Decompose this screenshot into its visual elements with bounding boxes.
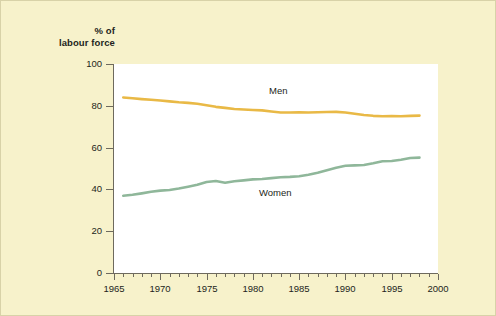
x-tick-mark-minor — [123, 274, 124, 277]
x-tick-label: 1975 — [187, 283, 227, 295]
x-tick-mark-minor — [308, 274, 309, 277]
x-tick-mark-minor — [373, 274, 374, 277]
y-tick-mark — [106, 106, 113, 107]
x-tick-mark-minor — [216, 274, 217, 277]
x-tick-label: 1965 — [94, 283, 134, 295]
x-tick-label: 2000 — [418, 283, 458, 295]
y-tick-label: 0 — [74, 268, 102, 278]
x-axis-spine — [113, 273, 438, 274]
x-tick-mark-minor — [318, 274, 319, 277]
x-tick-label-text: 2000 — [418, 283, 458, 294]
y-tick-label: 100 — [74, 59, 102, 69]
x-tick-label-text: 1975 — [187, 283, 227, 294]
x-tick-label-text: 1990 — [325, 283, 365, 294]
y-tick-label: 60 — [74, 143, 102, 153]
x-tick-mark-minor — [234, 274, 235, 277]
x-tick-label: 1995 — [372, 283, 412, 295]
x-tick-mark-minor — [355, 274, 356, 277]
chart-figure: % of labour force 020406080100 196519701… — [0, 0, 496, 316]
y-tick-mark — [106, 148, 113, 149]
x-tick-mark-minor — [429, 274, 430, 277]
y-tick-label-text: 80 — [74, 101, 102, 111]
y-axis-title: % of labour force — [11, 25, 115, 48]
y-tick-label: 40 — [74, 184, 102, 194]
x-tick-mark-major — [253, 274, 254, 280]
series-label-men: Men — [269, 85, 287, 96]
x-tick-mark-minor — [290, 274, 291, 277]
x-tick-mark-minor — [410, 274, 411, 277]
y-tick-mark — [106, 189, 113, 190]
x-tick-mark-minor — [133, 274, 134, 277]
x-tick-mark-minor — [170, 274, 171, 277]
x-tick-mark-minor — [262, 274, 263, 277]
x-tick-label: 1980 — [233, 283, 273, 295]
y-axis-title-line2: labour force — [11, 37, 115, 49]
x-tick-mark-minor — [179, 274, 180, 277]
y-tick-label: 20 — [74, 226, 102, 236]
y-tick-label: 80 — [74, 101, 102, 111]
x-tick-mark-major — [160, 274, 161, 280]
x-tick-mark-minor — [142, 274, 143, 277]
y-tick-label-text: 100 — [74, 59, 102, 69]
x-tick-label-text: 1985 — [279, 283, 319, 294]
x-tick-label: 1970 — [140, 283, 180, 295]
y-tick-mark — [106, 64, 113, 65]
x-tick-mark-major — [299, 274, 300, 280]
y-tick-mark — [106, 273, 113, 274]
x-tick-mark-major — [392, 274, 393, 280]
y-tick-mark — [106, 231, 113, 232]
y-axis-title-line1: % of — [11, 25, 115, 37]
x-tick-mark-minor — [225, 274, 226, 277]
x-tick-label-text: 1965 — [94, 283, 134, 294]
x-tick-mark-minor — [419, 274, 420, 277]
x-tick-label-text: 1970 — [140, 283, 180, 294]
y-tick-label-text: 40 — [74, 184, 102, 194]
x-tick-mark-minor — [364, 274, 365, 277]
x-tick-mark-minor — [271, 274, 272, 277]
x-tick-mark-minor — [401, 274, 402, 277]
line-series-men — [123, 97, 419, 116]
x-tick-mark-minor — [281, 274, 282, 277]
x-tick-label: 1985 — [279, 283, 319, 295]
x-tick-mark-minor — [336, 274, 337, 277]
x-tick-mark-minor — [151, 274, 152, 277]
y-axis-spine — [113, 64, 114, 274]
x-tick-mark-major — [207, 274, 208, 280]
x-tick-mark-minor — [188, 274, 189, 277]
x-tick-label-text: 1995 — [372, 283, 412, 294]
x-tick-label-text: 1980 — [233, 283, 273, 294]
x-tick-mark-minor — [382, 274, 383, 277]
x-tick-mark-major — [438, 274, 439, 280]
y-tick-label-text: 60 — [74, 143, 102, 153]
y-tick-label-text: 0 — [74, 268, 102, 278]
x-tick-mark-minor — [197, 274, 198, 277]
x-tick-mark-major — [345, 274, 346, 280]
x-tick-mark-minor — [327, 274, 328, 277]
series-label-women: Women — [259, 187, 292, 198]
x-tick-mark-major — [114, 274, 115, 280]
x-tick-label: 1990 — [325, 283, 365, 295]
y-tick-label-text: 20 — [74, 226, 102, 236]
x-tick-mark-minor — [244, 274, 245, 277]
